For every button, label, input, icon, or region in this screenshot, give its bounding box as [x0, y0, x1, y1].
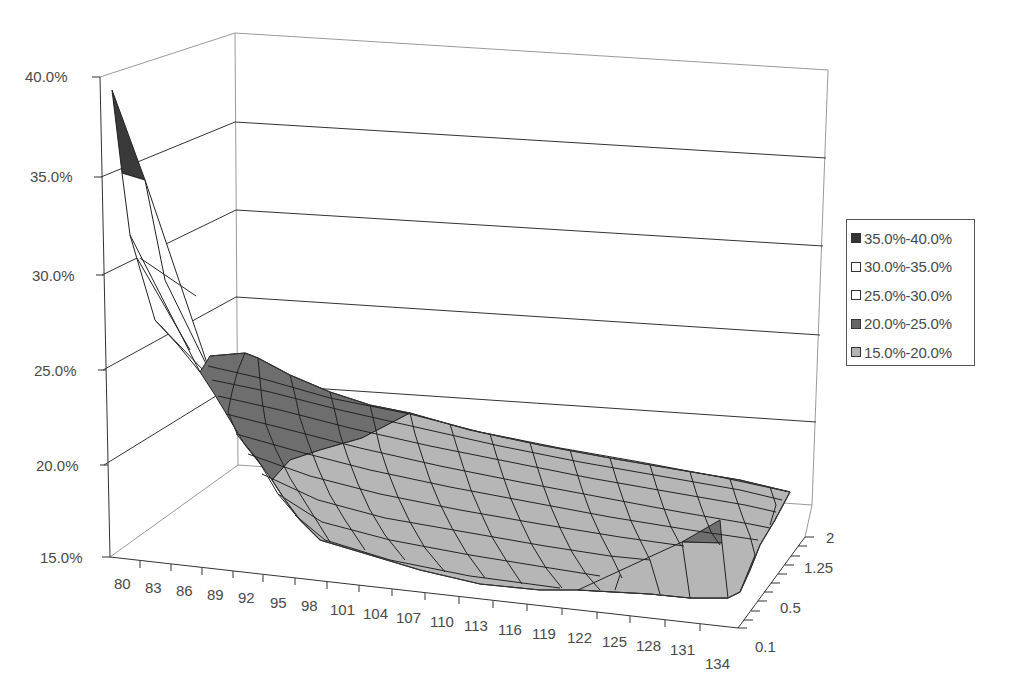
legend-item-25-30: 25.0%-30.0%: [851, 281, 974, 310]
legend-label: 25.0%-30.0%: [864, 287, 952, 304]
z-axis-line: [100, 77, 110, 557]
depth-tick-0.5: 0.5: [780, 599, 801, 616]
z-tick-30: 30.0%: [32, 267, 75, 284]
legend-label: 35.0%-40.0%: [864, 230, 952, 247]
x-tick-95: 95: [270, 594, 287, 611]
back-right-edge: [812, 70, 828, 505]
legend-swatch-icon: [851, 262, 861, 272]
x-tick-119: 119: [532, 625, 556, 642]
x-tick-113: 113: [464, 617, 488, 634]
surface: [112, 90, 790, 598]
z-tick-15: 15.0%: [40, 549, 83, 566]
x-tick-92: 92: [238, 589, 255, 606]
chart-legend: 35.0%-40.0% 30.0%-35.0% 25.0%-30.0% 20.0…: [846, 219, 975, 366]
surface-band-35-40: [112, 90, 145, 180]
gridline-30: [102, 210, 823, 275]
x-tick-131: 131: [670, 641, 695, 658]
depth-tick-0.1: 0.1: [755, 638, 776, 655]
left-wall-top-edge: [100, 33, 235, 77]
x-tick-80: 80: [114, 575, 131, 592]
gridline-35: [101, 122, 826, 177]
legend-item-30-35: 30.0%-35.0%: [851, 253, 974, 282]
x-tick-116: 116: [498, 621, 522, 638]
depth-tick-2: 2: [826, 529, 834, 546]
gridlines: [101, 122, 826, 465]
legend-swatch-icon: [851, 347, 861, 357]
z-tick-40: 40.0%: [25, 68, 68, 85]
z-axis: 40.0% 35.0% 30.0% 25.0% 20.0% 15.0%: [25, 68, 110, 566]
x-tick-110: 110: [430, 613, 454, 630]
floor-right-edge: [805, 505, 812, 537]
x-tick-98: 98: [301, 597, 318, 614]
floor-left-edge: [110, 465, 238, 557]
x-tick-122: 122: [567, 629, 592, 646]
x-tick-107: 107: [396, 609, 421, 626]
legend-label: 30.0%-35.0%: [864, 258, 952, 275]
legend-swatch-icon: [851, 233, 861, 243]
legend-item-35-40: 35.0%-40.0%: [851, 224, 974, 253]
x-tick-128: 128: [636, 637, 661, 654]
x-tick-134: 134: [705, 655, 730, 672]
legend-label: 20.0%-25.0%: [864, 315, 952, 332]
depth-tick-1.25: 1.25: [804, 559, 833, 576]
surface-band-25-35: [122, 173, 210, 372]
x-tick-89: 89: [207, 586, 224, 603]
legend-swatch-icon: [851, 290, 861, 300]
x-tick-125: 125: [602, 633, 627, 650]
x-tick-101: 101: [330, 601, 355, 618]
legend-swatch-icon: [851, 319, 861, 329]
back-wall-top-edge: [235, 33, 828, 70]
legend-label: 15.0%-20.0%: [864, 344, 952, 361]
x-tick-86: 86: [176, 582, 193, 599]
x-tick-104: 104: [363, 605, 388, 622]
legend-item-15-20: 15.0%-20.0%: [851, 338, 974, 367]
z-tick-25: 25.0%: [34, 362, 77, 379]
z-tick-20: 20.0%: [36, 457, 79, 474]
x-tick-83: 83: [145, 579, 162, 596]
legend-item-20-25: 20.0%-25.0%: [851, 310, 974, 339]
z-tick-35: 35.0%: [30, 168, 73, 185]
